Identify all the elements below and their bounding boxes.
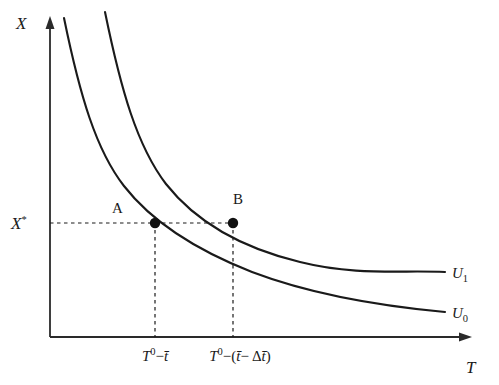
- curve-u1-subscript: 1: [463, 273, 468, 284]
- point-a-label: A: [112, 200, 123, 216]
- point-a-marker: [150, 218, 160, 228]
- indifference-curve-u1: [105, 12, 445, 272]
- point-b-marker: [228, 218, 238, 228]
- y-tick-label-xstar: X*: [10, 214, 27, 233]
- curve-label-u1: U1: [452, 265, 468, 284]
- x-axis-arrowhead: [459, 333, 472, 342]
- axes-group: [46, 16, 473, 342]
- curve-u0-subscript: 0: [463, 313, 468, 324]
- y-axis-label: X: [15, 14, 27, 33]
- guide-lines-group: [50, 223, 233, 337]
- x-tick-label-b: T0−(t̄− Δt̄): [209, 346, 271, 365]
- y-axis-arrowhead: [46, 16, 55, 29]
- curve-label-u0: U0: [452, 305, 468, 324]
- x-tick-label-a: T0−t̄: [142, 346, 170, 364]
- y-tick-superscript: *: [21, 214, 26, 225]
- indifference-curve-figure: X T A B X* T0−t̄ T0−(t̄− Δt̄) U1 U0: [0, 0, 499, 385]
- curves-group: [64, 12, 445, 312]
- indifference-curve-u0: [64, 18, 445, 312]
- y-tick-base: X: [10, 214, 22, 233]
- x-axis-label: T: [466, 358, 477, 377]
- point-b-label: B: [233, 191, 243, 207]
